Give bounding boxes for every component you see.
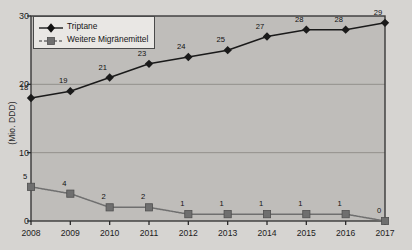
x-tick-label-2014: 2014 xyxy=(257,228,276,238)
data-point-1-2010 xyxy=(106,204,113,211)
x-tick-label-2011: 2011 xyxy=(140,228,158,238)
value-label-0-2013: 25 xyxy=(216,35,224,44)
x-tick-label-2010: 2010 xyxy=(100,228,119,238)
value-label-1-2016: 1 xyxy=(338,199,342,208)
value-label-1-2008: 5 xyxy=(23,172,27,181)
value-label-0-2008: 18 xyxy=(20,83,28,92)
value-label-1-2011: 2 xyxy=(141,192,145,201)
legend-label-triptane: Triptane xyxy=(67,21,97,31)
value-label-0-2016: 28 xyxy=(334,15,342,24)
x-tick-label-2016: 2016 xyxy=(336,228,355,238)
legend-key-diamond-icon xyxy=(38,20,64,32)
data-point-1-2015 xyxy=(303,211,310,218)
data-point-1-2014 xyxy=(263,211,270,218)
legend: Triptane Weitere Migränemittel xyxy=(33,16,155,49)
x-tick-label-2013: 2013 xyxy=(218,228,237,238)
data-point-1-2013 xyxy=(224,211,231,218)
legend-key-square-icon xyxy=(38,33,64,45)
legend-item-triptane: Triptane xyxy=(38,19,148,32)
legend-label-weitere-migraenemittel: Weitere Migränemittel xyxy=(67,34,148,44)
value-label-1-2012: 1 xyxy=(180,199,184,208)
value-label-0-2015: 28 xyxy=(295,15,303,24)
value-label-0-2014: 27 xyxy=(256,22,264,31)
data-point-1-2016 xyxy=(342,211,349,218)
x-tick-label-2012: 2012 xyxy=(179,228,198,238)
data-point-1-2008 xyxy=(27,183,34,190)
legend-item-weitere-migraenemittel: Weitere Migränemittel xyxy=(38,32,148,45)
data-point-1-2017 xyxy=(381,217,388,224)
value-label-1-2013: 1 xyxy=(220,199,224,208)
value-label-1-2015: 1 xyxy=(298,199,302,208)
data-point-1-2012 xyxy=(185,211,192,218)
value-label-0-2011: 23 xyxy=(138,49,146,58)
value-label-0-2012: 24 xyxy=(177,42,185,51)
migraine-medication-line-chart: (Mio. DDD) 0 10 20 30 200820092010201120… xyxy=(0,0,412,250)
value-label-1-2010: 2 xyxy=(102,192,106,201)
x-tick-label-2015: 2015 xyxy=(297,228,316,238)
value-label-0-2010: 21 xyxy=(98,63,106,72)
value-label-0-2017: 29 xyxy=(374,8,382,17)
value-label-0-2009: 19 xyxy=(59,76,67,85)
value-label-1-2009: 4 xyxy=(62,179,66,188)
data-point-1-2009 xyxy=(67,190,74,197)
value-label-1-2014: 1 xyxy=(259,199,263,208)
x-tick-label-2008: 2008 xyxy=(21,228,40,238)
x-tick-label-2017: 2017 xyxy=(375,228,394,238)
x-tick-label-2009: 2009 xyxy=(61,228,80,238)
value-label-1-2017: 0 xyxy=(377,206,381,215)
data-point-1-2011 xyxy=(145,204,152,211)
